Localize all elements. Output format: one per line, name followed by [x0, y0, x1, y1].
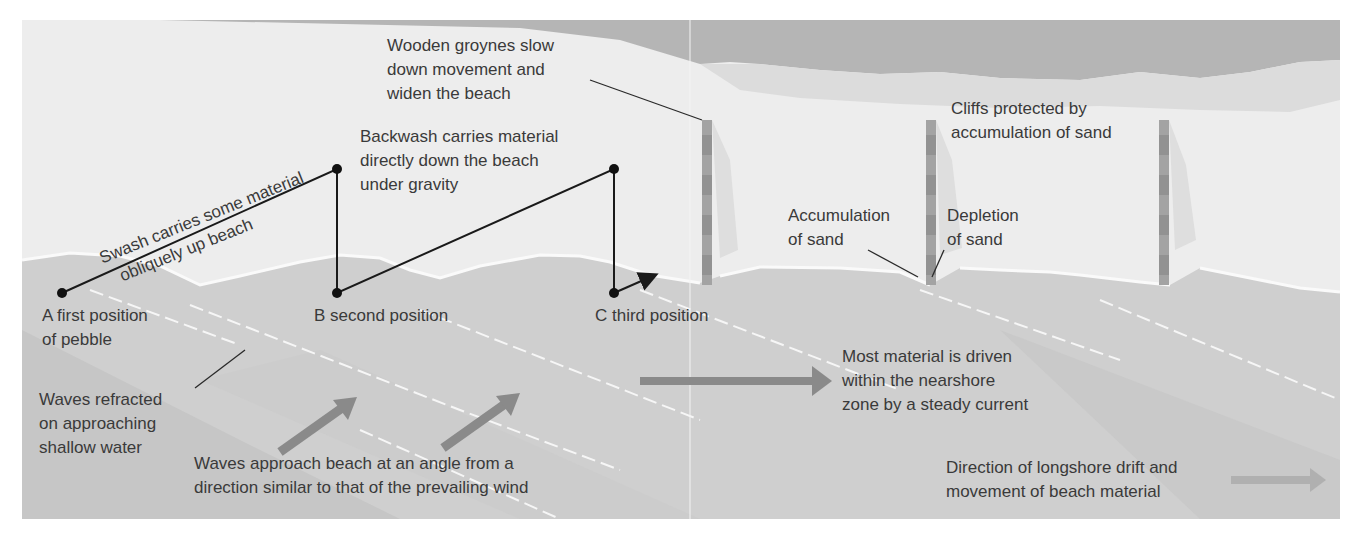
groyne-1 — [702, 120, 712, 285]
waves-approach-label: Waves approach beach at an angle from a … — [194, 452, 529, 500]
cliffs-label: Cliffs protected by accumulation of sand — [951, 97, 1112, 145]
nearshore-current-label: Most material is driven within the nears… — [842, 345, 1028, 417]
point-b-label: B second position — [314, 304, 448, 328]
refracted-waves-label: Waves refracted on approaching shallow w… — [39, 388, 162, 460]
depletion-label: Depletion of sand — [947, 204, 1019, 252]
backwash-label: Backwash carries material directly down … — [360, 125, 558, 197]
apex-2-dot — [609, 164, 619, 174]
point-c-label: C third position — [595, 304, 708, 328]
legend-drift-label: Direction of longshore drift and movemen… — [946, 456, 1178, 504]
point-a-dot — [57, 288, 67, 298]
groyne-3 — [1159, 120, 1169, 285]
point-b-dot — [332, 288, 342, 298]
apex-1-dot — [332, 164, 342, 174]
groynes-label: Wooden groynes slow down movement and wi… — [387, 34, 554, 106]
point-a-label: A first position of pebble — [42, 304, 148, 352]
accumulation-label: Accumulation of sand — [788, 204, 890, 252]
groyne-2 — [926, 120, 936, 285]
point-c-dot — [609, 288, 619, 298]
